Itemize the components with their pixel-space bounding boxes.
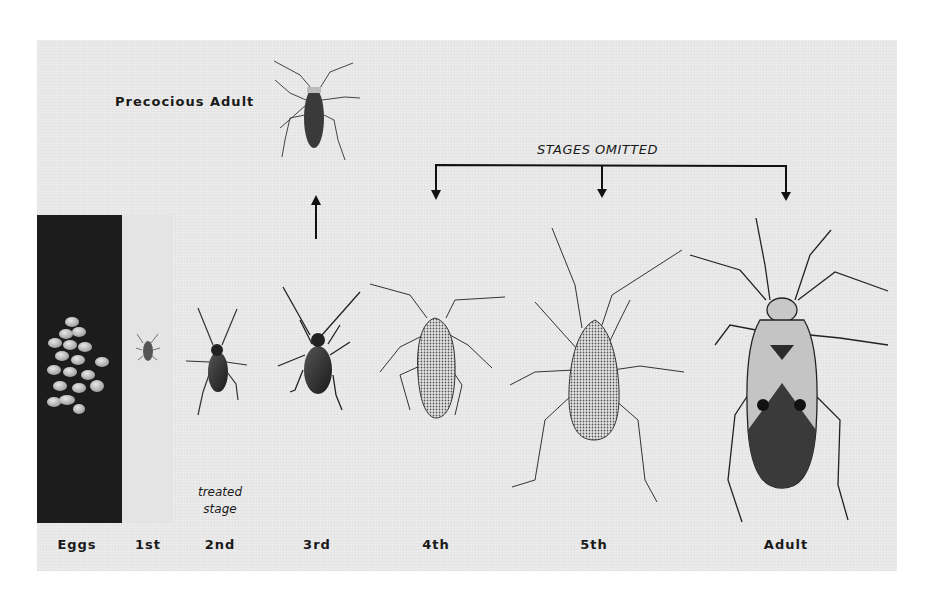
treated-stage-label: treated stage xyxy=(193,484,247,518)
stage-label-4th: 4th xyxy=(422,537,450,552)
second-instar-nymph xyxy=(186,308,247,415)
stage-label-3rd: 3rd xyxy=(303,537,331,552)
stage-label-adult: Adult xyxy=(764,537,808,552)
down-arrow-icon xyxy=(431,190,441,200)
up-arrow-icon xyxy=(311,195,321,239)
life-cycle-illustration xyxy=(0,0,927,609)
stage-label-5th: 5th xyxy=(580,537,608,552)
stage-label-eggs: Eggs xyxy=(57,537,96,552)
treated-line-1: treated xyxy=(193,484,247,501)
precocious-adult-insect xyxy=(274,61,360,160)
first-instar-nymph xyxy=(136,334,160,361)
stages-omitted-label: STAGES OMITTED xyxy=(537,142,658,157)
stage-label-1st: 1st xyxy=(135,537,161,552)
down-arrow-icon xyxy=(781,192,791,201)
fourth-instar-nymph xyxy=(370,284,505,418)
down-arrow-icon xyxy=(597,189,607,198)
stages-omitted-bracket xyxy=(431,165,791,201)
fifth-instar-nymph xyxy=(510,228,684,502)
precocious-adult-label: Precocious Adult xyxy=(115,94,254,109)
treated-line-2: stage xyxy=(193,501,247,518)
eggs-cluster xyxy=(47,317,109,414)
adult-insect xyxy=(690,218,888,522)
third-instar-nymph xyxy=(278,287,360,410)
stage-label-2nd: 2nd xyxy=(205,537,236,552)
